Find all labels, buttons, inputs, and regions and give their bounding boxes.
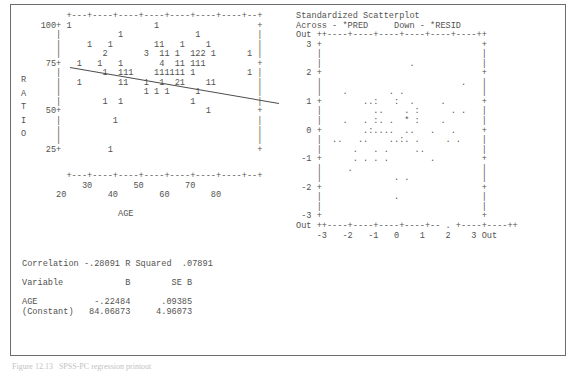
left-plot-ylabel: R A T I O [21,74,26,142]
standardized-scatterplot: Standardized Scatterplot Across - *PRED … [296,12,518,241]
printout-page: +---+----+----+----+----+----+----+--+ 1… [0,0,569,371]
left-plot-xlabel: AGE [20,210,133,220]
figure-caption: Figure 12.13 SPSS-PC regression printout [12,362,151,371]
regression-statistics: Correlation -.28091 R Squared .07891 Var… [22,260,213,317]
left-plot-xaxis: +---+----+----+----+----+----+----+--+ 3… [20,172,262,201]
ratio-age-scatterplot: +---+----+----+----+----+----+----+--+ 1… [20,12,262,155]
